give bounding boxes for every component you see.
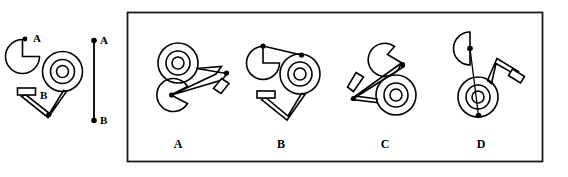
wheel-middle-ring <box>466 85 490 109</box>
wheel-outer-ring <box>43 52 83 92</box>
choice-d-label: D <box>477 137 486 151</box>
choice-b-figure[interactable]: B <box>247 43 321 151</box>
reference-label-a: A <box>33 32 41 44</box>
wheel-outer-ring <box>158 43 198 83</box>
wheel-middle-ring <box>51 60 75 84</box>
choice-c-label: C <box>381 137 390 151</box>
wheel-outer-ring <box>280 54 320 94</box>
wheel-middle-ring <box>288 62 312 86</box>
point-a-dot <box>400 62 405 67</box>
axis-label-bottom: B <box>100 114 108 126</box>
choice-a-label: A <box>174 137 183 151</box>
wheel-inner-ring <box>390 89 402 101</box>
point-b-dot <box>46 112 51 117</box>
wheel-middle-ring <box>166 51 190 75</box>
choice-c-figure[interactable]: C <box>348 43 417 151</box>
bracket-rectangle-tab <box>214 79 230 94</box>
reference-object: A B <box>6 32 83 118</box>
point-b-dot <box>224 70 229 75</box>
wheel-inner-ring <box>172 57 184 69</box>
axis-label-top: A <box>100 34 108 46</box>
choice-a-figure[interactable]: A <box>157 43 229 151</box>
point-a-dot <box>467 46 473 52</box>
point-b-dot <box>351 96 356 101</box>
point-b-dot <box>299 52 304 57</box>
bracket-rectangle-tab <box>509 69 525 83</box>
pac-man-disc <box>6 40 40 74</box>
point-a-dot <box>23 37 28 42</box>
choice-b-label: B <box>277 137 285 151</box>
bracket-rectangle-tab <box>348 73 364 92</box>
reference-label-b: B <box>40 89 48 101</box>
axis-top-dot <box>91 38 97 44</box>
point-a-dot <box>169 92 174 97</box>
bracket-rectangle-tab <box>257 91 275 98</box>
choice-d-figure[interactable]: D <box>454 32 525 151</box>
wheel-middle-ring <box>384 83 408 107</box>
pac-man-disc <box>247 47 280 80</box>
wheel-inner-ring <box>57 66 69 78</box>
wheel-inner-ring <box>294 68 306 80</box>
bracket-rectangle-tab <box>18 88 36 95</box>
point-a-dot <box>260 43 265 48</box>
axis-bottom-dot <box>91 118 97 124</box>
rotation-axis: A B <box>91 34 108 126</box>
axis-overlay-line <box>470 49 479 116</box>
figure-root: A B A B A <box>0 0 568 177</box>
top-connector <box>263 46 302 55</box>
wheel-inner-ring <box>472 91 484 103</box>
point-b-dot <box>476 113 482 119</box>
